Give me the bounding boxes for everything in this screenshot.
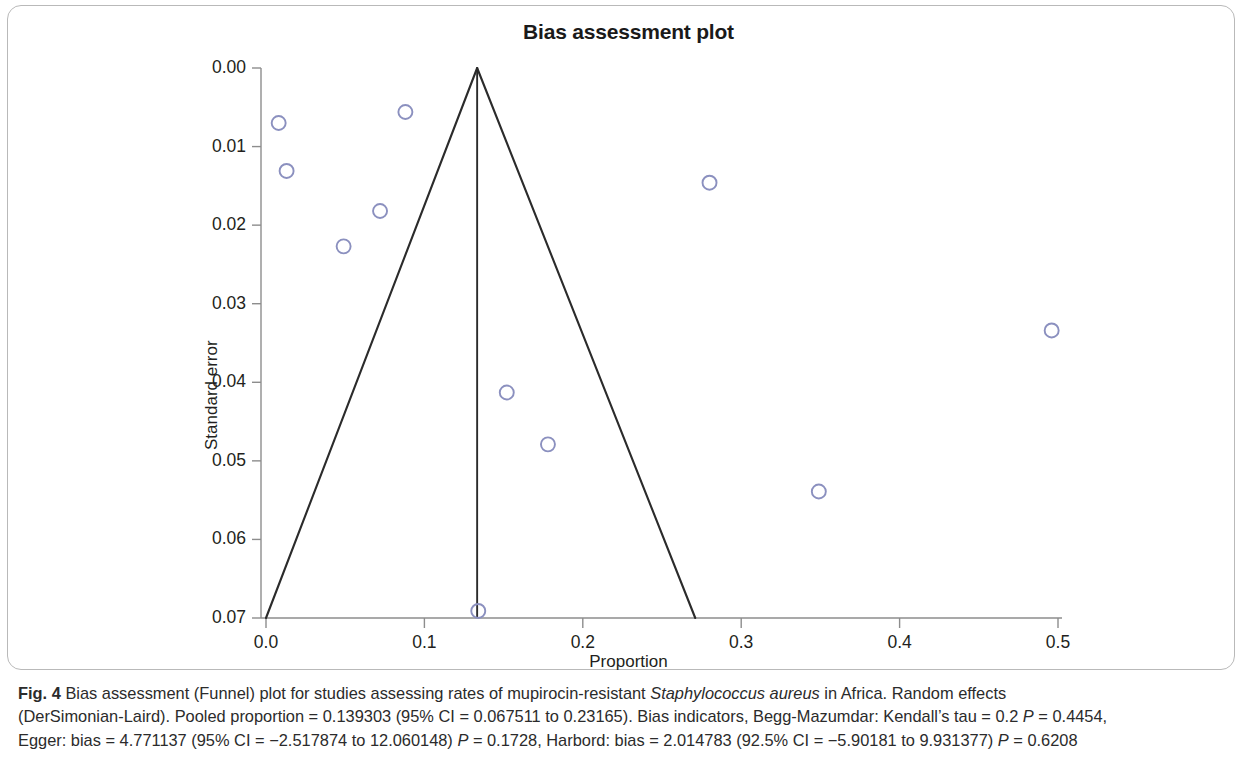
plot-axes [252, 68, 1062, 628]
funnel-lines [266, 68, 695, 618]
caption-p-italic-1: P [1023, 707, 1034, 725]
figure-label: Fig. 4 [18, 684, 61, 702]
data-point [541, 437, 555, 451]
caption-p-italic-2: P [457, 731, 468, 749]
data-point [398, 105, 412, 119]
data-point [280, 164, 294, 178]
caption-line-3: Egger: bias = 4.771137 (95% CI = −2.5178… [18, 729, 1248, 752]
x-tick-label: 0.5 [1023, 632, 1093, 653]
data-point [500, 386, 514, 400]
caption-line-2: (DerSimonian-Laird). Pooled proportion =… [18, 705, 1248, 728]
x-tick-label: 0.3 [706, 632, 776, 653]
y-tick-label: 0.01 [176, 136, 246, 157]
data-point [1045, 323, 1059, 337]
data-point [373, 204, 387, 218]
caption-text-3b: = 0.1728, Harbord: bias = 2.014783 (92.5… [468, 731, 997, 749]
x-axis-label: Proportion [0, 652, 1257, 672]
x-tick-label: 0.4 [865, 632, 935, 653]
data-point [337, 239, 351, 253]
y-tick-label: 0.05 [176, 450, 246, 471]
y-tick-label: 0.00 [176, 57, 246, 78]
y-axis-label: Standard error [202, 340, 222, 450]
caption-text-2a: (DerSimonian-Laird). Pooled proportion =… [18, 707, 1023, 725]
figure-caption: Fig. 4 Bias assessment (Funnel) plot for… [18, 682, 1248, 752]
caption-text-2b: = 0.4454, [1034, 707, 1107, 725]
y-tick-label: 0.04 [176, 371, 246, 392]
caption-text-3a: Egger: bias = 4.771137 (95% CI = −2.5178… [18, 731, 457, 749]
figure-root: Bias assessment plot Standard error Prop… [0, 0, 1257, 770]
caption-text-1a: Bias assessment (Funnel) plot for studie… [65, 684, 650, 702]
y-tick-label: 0.06 [176, 528, 246, 549]
data-point [812, 485, 826, 499]
y-tick-label: 0.02 [176, 214, 246, 235]
data-point [703, 176, 717, 190]
caption-species: Staphylococcus aureus [650, 684, 819, 702]
caption-p-italic-3: P [998, 731, 1009, 749]
y-tick-label: 0.07 [176, 607, 246, 628]
caption-text-1b: in Africa. Random effects [820, 684, 1006, 702]
x-tick-label: 0.0 [231, 632, 301, 653]
caption-line-1: Fig. 4 Bias assessment (Funnel) plot for… [18, 682, 1248, 705]
x-tick-label: 0.2 [548, 632, 618, 653]
data-point [272, 116, 286, 130]
data-point [471, 604, 485, 618]
caption-text-3c: = 0.6208 [1009, 731, 1078, 749]
y-tick-label: 0.03 [176, 293, 246, 314]
y-axis-label-wrap: Standard error [180, 250, 204, 450]
x-tick-label: 0.1 [389, 632, 459, 653]
